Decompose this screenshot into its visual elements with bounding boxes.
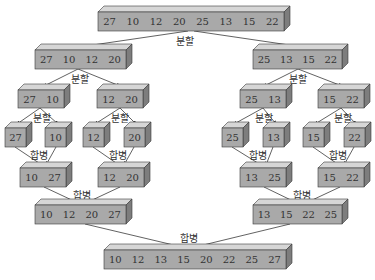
array-value: 22: [325, 54, 338, 65]
array-value: 10: [127, 16, 140, 27]
array-value: 27: [103, 16, 116, 27]
array-value: 27: [268, 254, 281, 265]
merge-arrow: [85, 224, 182, 247]
array-value: 25: [258, 54, 271, 65]
array-box: 1027: [20, 162, 72, 187]
array-value: 13: [220, 16, 233, 27]
array-value: 15: [323, 94, 336, 105]
array-value: 20: [108, 54, 121, 65]
array-box: 10122027: [35, 199, 132, 224]
array-value: 27: [40, 54, 53, 65]
array-box: 12: [83, 122, 110, 147]
array-value: 22: [266, 16, 279, 27]
array-value: 20: [125, 94, 138, 105]
array-value: 25: [268, 172, 281, 183]
merge-sort-diagram: 분할 분할 분할 분할 분할 분할 분할 합병 합병 합병 합병 합병 합병 합…: [0, 0, 375, 280]
array-value: 25: [246, 254, 259, 265]
split-label: 분할: [33, 113, 51, 124]
merge-label: 합병: [109, 150, 127, 161]
array-value: 15: [280, 209, 293, 220]
array-value: 13: [258, 209, 271, 220]
array-box: 25131522: [253, 44, 348, 69]
array-value: 27: [48, 172, 61, 183]
array-value: 13: [245, 172, 258, 183]
array-box: 1220: [97, 84, 149, 108]
array-value: 25: [226, 132, 239, 143]
array-value: 10: [25, 172, 38, 183]
array-value: 27: [9, 132, 22, 143]
array-box: 1220: [98, 162, 150, 187]
array-value: 12: [87, 132, 100, 143]
array-box: 13152225: [253, 199, 348, 224]
array-box: 2710: [18, 84, 70, 108]
array-value: 13: [155, 254, 168, 265]
array-box: 13: [263, 122, 290, 147]
array-value: 13: [267, 132, 280, 143]
array-box: 10: [45, 122, 72, 147]
array-value: 25: [245, 94, 258, 105]
array-box: 15: [303, 122, 330, 147]
array-value: 20: [126, 172, 139, 183]
array-box: 27: [5, 122, 32, 147]
array-value: 12: [63, 209, 76, 220]
array-value: 10: [49, 132, 62, 143]
array-value: 15: [323, 172, 336, 183]
array-value: 10: [40, 209, 53, 220]
array-value: 12: [132, 254, 145, 265]
array-box: 22: [344, 122, 371, 147]
array-value: 15: [302, 54, 315, 65]
split-label: 분할: [176, 36, 194, 47]
array-value: 15: [177, 254, 190, 265]
array-value: 27: [23, 94, 36, 105]
array-value: 20: [86, 209, 99, 220]
array-value: 12: [86, 54, 99, 65]
array-value: 22: [346, 94, 359, 105]
array-box: 2710122025131522: [98, 6, 290, 31]
merge-label: 합병: [180, 233, 198, 244]
array-value: 15: [307, 132, 320, 143]
array-box: 1522: [318, 162, 370, 187]
array-value: 25: [196, 16, 209, 27]
array-value: 20: [200, 254, 213, 265]
array-box: 27101220: [35, 44, 132, 69]
split-label: 분할: [111, 113, 129, 124]
array-value: 27: [108, 209, 121, 220]
array-value: 22: [348, 132, 361, 143]
array-value: 20: [128, 132, 141, 143]
array-box: 25: [222, 122, 249, 147]
array-value: 10: [46, 94, 59, 105]
array-value: 10: [63, 54, 76, 65]
array-value: 15: [243, 16, 256, 27]
merge-arrow: [195, 224, 290, 247]
merge-label: 합병: [329, 150, 347, 161]
split-label: 분할: [289, 74, 307, 85]
array-value: 13: [268, 94, 281, 105]
array-value: 13: [280, 54, 293, 65]
array-box: 20: [124, 122, 151, 147]
array-box: 1325: [240, 162, 292, 187]
array-value: 10: [109, 254, 122, 265]
split-label: 분할: [71, 74, 89, 85]
array-box: 1522: [318, 84, 370, 108]
array-value: 22: [302, 209, 315, 220]
array-value: 12: [102, 94, 115, 105]
array-box: 1012131520222527: [104, 244, 292, 269]
array-box: 2513: [240, 84, 292, 108]
array-value: 12: [150, 16, 163, 27]
merge-label: 합병: [249, 150, 267, 161]
array-value: 12: [103, 172, 116, 183]
array-value: 25: [325, 209, 338, 220]
array-value: 20: [173, 16, 186, 27]
array-value: 22: [346, 172, 359, 183]
array-value: 22: [223, 254, 236, 265]
merge-label: 합병: [30, 150, 48, 161]
